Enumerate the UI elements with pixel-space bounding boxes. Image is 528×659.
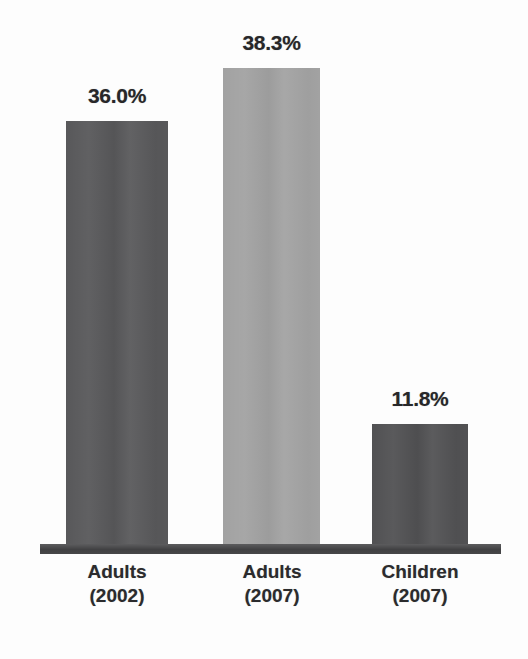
x-tick-label-children-2007: Children (2007) bbox=[350, 560, 490, 609]
bar-adults-2002[interactable] bbox=[66, 121, 168, 554]
x-axis-baseline bbox=[40, 544, 501, 554]
bar-value-label-adults-2002: 36.0% bbox=[88, 84, 146, 108]
bar-value-label-children-2007: 11.8% bbox=[392, 387, 449, 411]
x-tick-label-adults-2002-line2: (2002) bbox=[47, 584, 187, 608]
x-axis-tick-labels: Adults (2002) Adults (2007) Children (20… bbox=[0, 560, 528, 650]
x-tick-label-adults-2007-line2: (2007) bbox=[202, 584, 342, 608]
x-tick-label-adults-2007-line1: Adults bbox=[202, 560, 342, 584]
x-tick-label-children-2007-line1: Children bbox=[350, 560, 490, 584]
x-tick-label-adults-2007: Adults (2007) bbox=[202, 560, 342, 609]
bar-group-adults-2007: 38.3% bbox=[223, 57, 320, 554]
bar-children-2007[interactable] bbox=[372, 424, 468, 554]
plot-area: 36.0% 38.3% 11.8% bbox=[0, 0, 528, 554]
bar-group-adults-2002: 36.0% bbox=[66, 110, 168, 554]
bar-adults-2007[interactable] bbox=[223, 68, 320, 554]
x-tick-label-children-2007-line2: (2007) bbox=[350, 584, 490, 608]
bar-value-label-adults-2007: 38.3% bbox=[242, 31, 300, 55]
x-tick-label-adults-2002-line1: Adults bbox=[47, 560, 187, 584]
bar-chart: 36.0% 38.3% 11.8% Adults (2002) Adults (… bbox=[0, 0, 528, 659]
x-tick-label-adults-2002: Adults (2002) bbox=[47, 560, 187, 609]
bar-group-children-2007: 11.8% bbox=[372, 413, 468, 554]
